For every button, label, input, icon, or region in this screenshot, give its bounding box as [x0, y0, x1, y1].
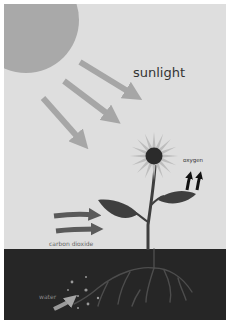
sunlight-label: sunlight	[133, 65, 185, 80]
flower-center	[146, 148, 163, 165]
photosynthesis-diagram: sunlight oxygen carbon dioxide water	[0, 0, 232, 324]
carbon-dioxide-label: carbon dioxide	[49, 240, 94, 247]
diagram-canvas: sunlight oxygen carbon dioxide water	[0, 0, 232, 324]
water-label: water	[39, 293, 57, 300]
soil-background	[4, 249, 226, 320]
co2-arrow-icon	[56, 229, 97, 231]
co2-arrow-icon	[54, 214, 95, 216]
oxygen-label: oxygen	[183, 157, 204, 164]
